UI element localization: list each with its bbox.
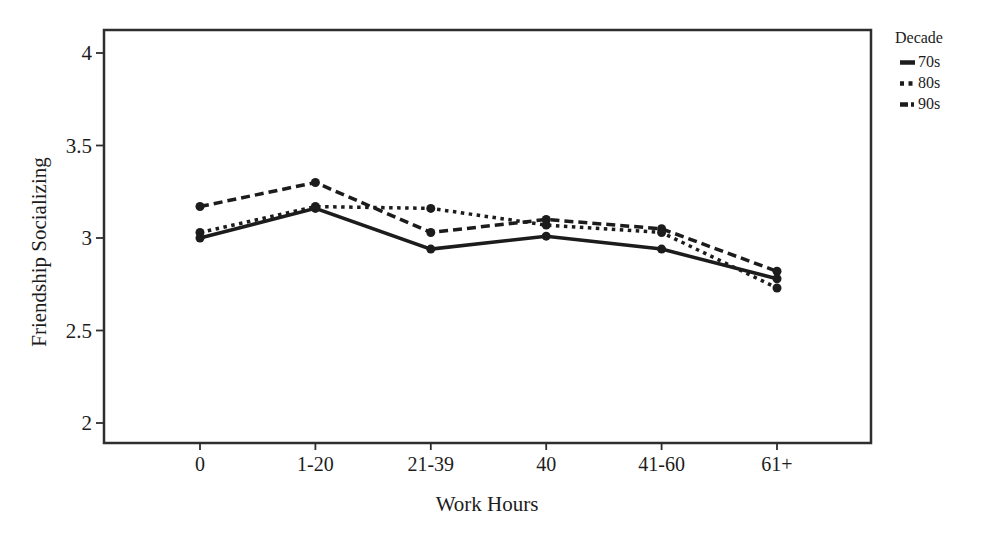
line-chart: 22.533.5401-2021-394041-6061+ [0,0,985,535]
legend-title: Decade [895,28,943,48]
x-tick-label: 61+ [761,453,792,475]
y-tick-label: 3 [82,226,93,250]
data-point-70s-41-60 [657,245,666,254]
data-point-70s-1-20 [311,204,320,213]
y-tick-label: 4 [82,41,93,65]
data-point-80s-41-60 [657,228,666,237]
data-point-90s-1-20 [311,178,320,187]
x-tick-label: 41-60 [638,453,685,475]
legend: Decade 70s 80s 90s [891,28,943,115]
plot-border [104,30,871,443]
chart-figure: 22.533.5401-2021-394041-6061+ Friendship… [0,0,985,535]
legend-entry: 80s [899,73,943,93]
y-tick-label: 2 [82,411,93,435]
data-point-80s-21-39 [426,204,435,213]
x-axis-title: Work Hours [407,492,567,517]
data-point-70s-0 [196,234,205,243]
legend-label: 70s [918,52,940,72]
x-tick-label: 21-39 [407,453,454,475]
series-line-70s [200,208,777,278]
data-point-90s-21-39 [426,228,435,237]
legend-label: 90s [918,94,940,114]
data-point-70s-40 [542,232,551,241]
data-point-90s-0 [196,202,205,211]
solid-line-sample-icon [899,58,917,67]
y-tick-label: 3.5 [66,134,92,158]
y-axis-title: Friendship Socializing [27,120,53,384]
dotted-line-sample-icon [899,79,917,88]
legend-entry: 70s [899,52,943,72]
x-tick-label: 1-20 [297,453,334,475]
legend-label: 80s [918,73,940,93]
data-point-70s-61+ [773,274,782,283]
data-point-70s-21-39 [426,245,435,254]
x-tick-label: 40 [536,453,556,475]
data-point-80s-61+ [773,283,782,292]
dashed-line-sample-icon [899,100,917,109]
y-tick-label: 2.5 [66,319,92,343]
x-tick-label: 0 [195,453,205,475]
series-line-80s [200,207,777,288]
data-point-80s-40 [542,221,551,230]
legend-entry: 90s [899,94,943,114]
